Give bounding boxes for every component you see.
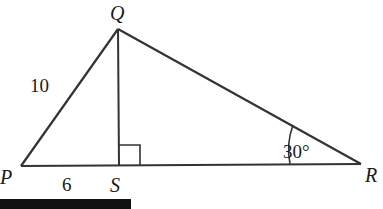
- vertex-label-P: P: [0, 166, 12, 188]
- side-label-PS: 6: [62, 174, 72, 195]
- diagram-svg: Q P S R 10 6 30°: [0, 0, 383, 209]
- side-PR: [21, 164, 361, 166]
- black-bar: [0, 199, 131, 209]
- vertex-label-R: R: [364, 164, 377, 186]
- vertex-label-Q: Q: [110, 2, 125, 24]
- triangle-diagram: Q P S R 10 6 30°: [0, 0, 383, 209]
- side-PQ: [21, 29, 118, 166]
- side-QR: [118, 29, 361, 164]
- right-angle-marker: [119, 145, 140, 165]
- vertex-label-S: S: [110, 174, 120, 196]
- altitude-QS: [118, 29, 119, 166]
- side-label-PQ: 10: [30, 75, 49, 96]
- angle-label-R: 30°: [283, 141, 310, 162]
